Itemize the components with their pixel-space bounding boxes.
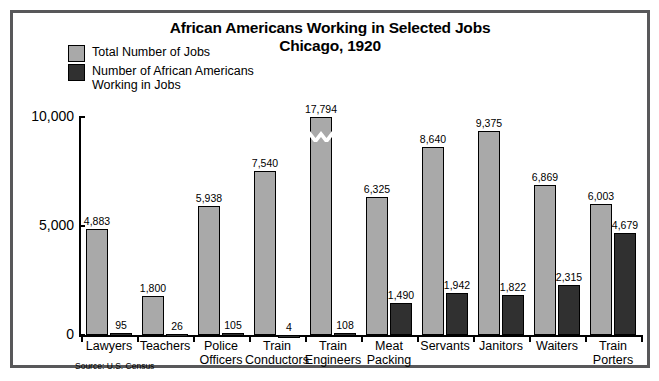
x-axis-category-label-line: Teachers [140, 340, 191, 354]
x-axis-category-label-line: Officers [200, 354, 243, 368]
x-axis-category-label-line: Train [593, 340, 633, 354]
x-axis-category-label: MeatPacking [367, 340, 411, 367]
x-axis-tick [585, 335, 587, 342]
x-axis-category-label-line: Meat [367, 340, 411, 354]
bar-total-jobs [422, 147, 444, 335]
y-axis-tick-label: 0 [19, 326, 74, 342]
bar-african-americans [110, 333, 132, 336]
x-axis-category-label-line: Waiters [536, 340, 578, 354]
x-axis-category-label-line: Janitors [479, 340, 523, 354]
x-axis-tick [361, 335, 363, 342]
bar-african-americans [278, 335, 300, 338]
bar-value-label: 9,375 [476, 117, 502, 129]
bar-value-label: 4,883 [84, 215, 110, 227]
bar-african-americans [166, 334, 188, 337]
x-axis-tick [81, 335, 83, 342]
bar-value-label: 1,822 [500, 281, 526, 293]
bar-african-americans [502, 295, 524, 335]
bar-total-jobs [142, 296, 164, 335]
bar-value-label: 6,325 [364, 183, 390, 195]
x-axis-category-label: TrainConductors [245, 340, 309, 367]
x-axis-tick [193, 335, 195, 342]
bar-value-label: 17,794 [305, 103, 337, 115]
x-axis-category-label: PoliceOfficers [200, 340, 243, 367]
y-axis-tick-label: 10,000 [19, 108, 74, 124]
y-axis-tick-mark [79, 116, 85, 118]
bar-total-jobs [86, 229, 108, 335]
bar-value-label: 4,679 [612, 219, 638, 231]
source-note: Source: U.S. Census [75, 361, 154, 371]
x-axis-category-label-line: Packing [367, 354, 411, 368]
bar-african-americans [446, 293, 468, 335]
x-axis-category-label: Teachers [140, 340, 191, 354]
x-axis-tick [529, 335, 531, 342]
bar-total-jobs [478, 131, 500, 335]
bar-total-jobs [198, 206, 220, 335]
bar-value-label: 108 [336, 319, 354, 331]
x-axis-category-label: Servants [420, 340, 469, 354]
x-axis-category-label-line: Lawyers [86, 340, 133, 354]
bar-african-americans [334, 333, 356, 336]
bar-value-label: 95 [115, 319, 127, 331]
bar-total-jobs [590, 204, 612, 335]
x-axis-tick [473, 335, 475, 342]
bar-african-americans [222, 333, 244, 336]
bar-total-jobs [366, 197, 388, 335]
bar-value-label: 6,003 [588, 190, 614, 202]
bar-value-label: 4 [286, 321, 292, 333]
bar-value-label: 1,800 [140, 282, 166, 294]
x-axis-category-label-line: Train [245, 340, 309, 354]
bar-value-label: 1,490 [388, 289, 414, 301]
x-axis-category-label-line: Engineers [305, 354, 361, 368]
bar-african-americans [390, 303, 412, 335]
bar-total-jobs [254, 171, 276, 335]
bar-value-label: 2,315 [556, 271, 582, 283]
axis-break-zigzag-icon [310, 128, 332, 142]
x-axis-tick [641, 335, 643, 342]
bar-value-label: 6,869 [532, 171, 558, 183]
plot-area: 05,00010,0004,88395Lawyers1,80026Teacher… [13, 13, 647, 365]
bar-total-jobs [534, 185, 556, 335]
x-axis-category-label: TrainEngineers [305, 340, 361, 367]
bar-value-label: 1,942 [444, 279, 470, 291]
x-axis-line [79, 335, 641, 337]
x-axis-category-label-line: Police [200, 340, 243, 354]
chart-frame: African Americans Working in Selected Jo… [10, 10, 650, 368]
bar-value-label: 105 [224, 319, 242, 331]
x-axis-category-label-line: Conductors [245, 354, 309, 368]
bar-value-label: 8,640 [420, 133, 446, 145]
x-axis-category-label-line: Porters [593, 354, 633, 368]
x-axis-category-label: Waiters [536, 340, 578, 354]
x-axis-category-label-line: Servants [420, 340, 469, 354]
bar-total-jobs [310, 117, 332, 335]
bar-value-label: 5,938 [196, 192, 222, 204]
bar-african-americans [614, 233, 636, 335]
bar-value-label: 26 [171, 320, 183, 332]
x-axis-category-label: TrainPorters [593, 340, 633, 367]
y-axis-tick-label: 5,000 [19, 217, 74, 233]
x-axis-category-label: Janitors [479, 340, 523, 354]
x-axis-category-label-line: Train [305, 340, 361, 354]
bar-african-americans [558, 285, 580, 335]
bar-value-label: 7,540 [252, 157, 278, 169]
x-axis-tick [417, 335, 419, 342]
x-axis-category-label: Lawyers [86, 340, 133, 354]
